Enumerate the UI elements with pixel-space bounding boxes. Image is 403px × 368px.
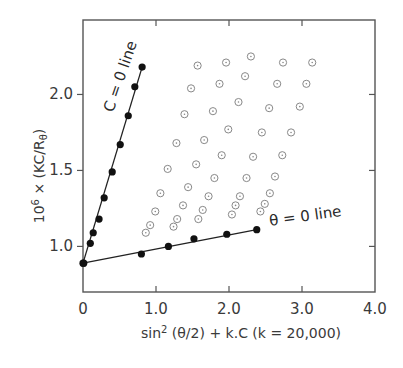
open-circle-dot [203, 139, 205, 141]
chart: 01.02.03.04.01.01.52.0 C = 0 line θ = 0 … [0, 0, 403, 368]
open-circle-dot [173, 226, 175, 228]
open-data-point [173, 139, 180, 146]
c0-line-annotation: C = 0 line [100, 39, 141, 115]
filled-data-point [138, 250, 145, 257]
y-tick-label: 1.5 [49, 161, 73, 179]
open-circle-dot [260, 211, 262, 213]
open-data-point [225, 126, 232, 133]
open-data-point [243, 174, 250, 181]
open-data-point [157, 190, 164, 197]
open-circle-dot [239, 195, 241, 197]
x-axis-label: sin2 (θ/2) + k.C (k = 20,000) [141, 324, 341, 341]
open-circle-dot [246, 177, 248, 179]
open-data-point [194, 62, 201, 69]
open-circle-dot [235, 205, 237, 207]
open-data-point [258, 129, 265, 136]
filled-data-point [117, 141, 124, 148]
open-circle-dot [195, 164, 197, 166]
open-data-point [174, 215, 181, 222]
open-circle-dot [268, 107, 270, 109]
open-circle-dot [197, 65, 199, 67]
filled-data-point [90, 229, 97, 236]
open-circle-dot [244, 75, 246, 77]
filled-data-point [190, 235, 197, 242]
open-circle-dot [190, 88, 192, 90]
open-circle-dot [219, 83, 221, 85]
open-data-point [257, 208, 264, 215]
open-data-point [303, 80, 310, 87]
open-circle-dot [306, 83, 308, 85]
open-circle-dot [208, 195, 210, 197]
open-circle-dot [221, 154, 223, 156]
open-circle-dot [299, 106, 301, 108]
x-axis-label-base: sin [141, 325, 161, 341]
open-circle-dot [214, 177, 216, 179]
filled-data-point [165, 243, 172, 250]
open-data-point [249, 153, 256, 160]
y-tick-label: 1.0 [49, 237, 73, 255]
open-data-point [236, 193, 243, 200]
open-circle-dot [282, 62, 284, 64]
open-circle-dot [212, 110, 214, 112]
open-data-point [271, 173, 278, 180]
filled-data-point [139, 64, 146, 71]
open-circle-dot [160, 192, 162, 194]
open-circle-dot [290, 132, 292, 134]
open-circle-dot [184, 113, 186, 115]
open-data-point [142, 229, 149, 236]
y-axis-label-mid: × (KC/R [31, 140, 47, 199]
open-data-point [218, 152, 225, 159]
open-data-point [261, 200, 268, 207]
open-circle-dot [176, 142, 178, 144]
open-data-point [211, 174, 218, 181]
filled-data-point [131, 83, 138, 90]
open-data-point [279, 152, 286, 159]
open-data-point [279, 59, 286, 66]
filled-data-point [79, 260, 86, 267]
x-tick-label: 3.0 [290, 300, 314, 318]
filled-data-point [101, 194, 108, 201]
open-data-point [199, 206, 206, 213]
open-circle-dot [274, 176, 276, 178]
open-data-point [195, 215, 202, 222]
open-circle-dot [149, 224, 151, 226]
open-data-point [266, 190, 273, 197]
open-circle-dot [145, 232, 147, 234]
open-data-point [205, 193, 212, 200]
x-tick-label: 1.0 [144, 300, 168, 318]
open-circle-dot [261, 132, 263, 134]
y-axis-label: 106 × (KC/Rθ) [30, 129, 49, 224]
open-data-point [287, 129, 294, 136]
open-data-point [187, 85, 194, 92]
open-circle-dot [227, 129, 229, 131]
open-circle-dot [264, 203, 266, 205]
open-data-point [222, 59, 229, 66]
x-axis-label-rest: (θ/2) + k.C (k = 20,000) [167, 325, 341, 341]
filled-data-point [253, 226, 260, 233]
filled-data-point [109, 168, 116, 175]
open-data-point [170, 223, 177, 230]
open-data-point [201, 136, 208, 143]
open-data-point [209, 108, 216, 115]
open-circle-dot [252, 156, 254, 158]
x-tick-label: 4.0 [363, 300, 387, 318]
open-data-point [296, 103, 303, 110]
open-data-point [179, 202, 186, 209]
open-circle-dot [182, 205, 184, 207]
open-circle-dot [225, 62, 227, 64]
open-circle-dot [311, 62, 313, 64]
open-circle-dot [167, 168, 169, 170]
open-circle-dot [187, 186, 189, 188]
open-data-point [247, 53, 254, 60]
x-tick-label: 2.0 [217, 300, 241, 318]
filled-data-point [223, 231, 230, 238]
open-circle-dot [176, 218, 178, 220]
open-circle-dot [238, 101, 240, 103]
open-data-point [216, 80, 223, 87]
open-data-point [228, 211, 235, 218]
open-circle-dot [250, 56, 252, 58]
open-circle-dot [202, 209, 204, 211]
open-data-point [181, 111, 188, 118]
open-data-point [309, 59, 316, 66]
open-data-point [147, 222, 154, 229]
